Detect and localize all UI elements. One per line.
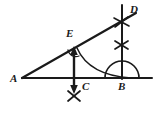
vertex-label-C: C	[82, 81, 89, 92]
vertex-label-B: B	[118, 81, 125, 92]
arrow-head-down	[70, 85, 78, 94]
hypotenuse-line-AD	[22, 13, 136, 78]
double-headed-arrow-through-C	[70, 46, 78, 94]
geometry-canvas	[0, 0, 159, 116]
vertex-label-A: A	[10, 73, 17, 84]
segments-group	[22, 5, 152, 79]
vertex-label-D: D	[130, 4, 138, 15]
geometry-figure: A E D C B	[0, 0, 159, 116]
vertex-label-E: E	[66, 28, 73, 39]
